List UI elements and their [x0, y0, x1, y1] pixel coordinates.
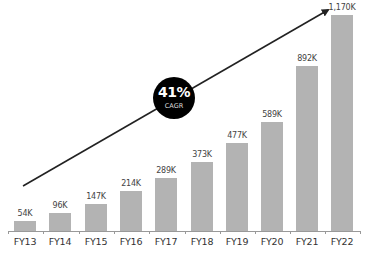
x-tick — [79, 231, 80, 234]
cagr-label: CAGR — [153, 102, 195, 110]
bar-fy22 — [331, 15, 353, 231]
x-tick-label: FY17 — [146, 236, 186, 247]
bar-fy15 — [85, 204, 107, 231]
cagr-badge: 41% CAGR — [153, 77, 195, 119]
x-tick — [220, 231, 221, 234]
value-label: 289K — [144, 166, 188, 175]
x-tick — [114, 231, 115, 234]
value-label: 589K — [250, 110, 294, 119]
bar-fy18 — [191, 162, 213, 231]
bar-fy13 — [14, 221, 36, 231]
bar-chart: 54KFY1396KFY14147KFY15214KFY16289KFY1737… — [0, 0, 365, 259]
value-label: 1,170K — [320, 3, 364, 12]
bar-fy14 — [49, 213, 71, 231]
x-tick — [8, 231, 9, 234]
value-label: 214K — [109, 179, 153, 188]
bar-fy19 — [226, 143, 248, 231]
cagr-value: 41% — [153, 84, 195, 100]
x-tick — [255, 231, 256, 234]
x-tick-label: FY18 — [182, 236, 222, 247]
value-label: 477K — [215, 131, 259, 140]
x-tick — [290, 231, 291, 234]
bar-fy21 — [296, 66, 318, 231]
x-tick — [185, 231, 186, 234]
value-label: 147K — [74, 192, 118, 201]
value-label: 373K — [180, 150, 224, 159]
bar-fy20 — [261, 122, 283, 231]
x-tick-label: FY21 — [287, 236, 327, 247]
value-label: 892K — [285, 54, 329, 63]
x-tick-label: FY20 — [252, 236, 292, 247]
x-tick — [360, 231, 361, 234]
x-tick — [149, 231, 150, 234]
bar-fy16 — [120, 191, 142, 231]
x-tick — [43, 231, 44, 234]
x-tick-label: FY16 — [111, 236, 151, 247]
x-tick-label: FY15 — [76, 236, 116, 247]
value-label: 96K — [38, 201, 82, 210]
x-tick — [325, 231, 326, 234]
value-label: 54K — [3, 209, 47, 218]
x-tick-label: FY14 — [40, 236, 80, 247]
x-tick-label: FY19 — [217, 236, 257, 247]
x-tick-label: FY13 — [5, 236, 45, 247]
x-tick-label: FY22 — [322, 236, 362, 247]
bar-fy17 — [155, 178, 177, 231]
